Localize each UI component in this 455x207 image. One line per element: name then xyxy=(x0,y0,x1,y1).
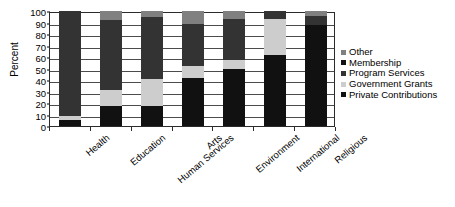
bar-segment[interactable] xyxy=(182,66,204,78)
legend-label: Government Grants xyxy=(349,79,432,89)
bar-segment[interactable] xyxy=(100,20,122,90)
bar-segment[interactable] xyxy=(223,69,245,127)
bar-slot xyxy=(91,13,132,126)
bar-segment[interactable] xyxy=(223,19,245,60)
bar-segment[interactable] xyxy=(264,19,286,55)
bar-segment[interactable] xyxy=(59,116,81,121)
x-category-label: Health xyxy=(84,132,112,158)
y-tick-label: 60 xyxy=(35,54,46,63)
y-tick-label: 20 xyxy=(35,100,46,109)
bar-segment[interactable] xyxy=(141,17,163,79)
legend-swatch-icon xyxy=(341,71,346,76)
stacked-bar[interactable] xyxy=(59,11,81,126)
y-axis-tick-labels: 1009080706050403020100 xyxy=(20,12,46,127)
bar-segment[interactable] xyxy=(141,79,163,107)
stacked-bar[interactable] xyxy=(141,11,163,126)
bar-series-group xyxy=(50,13,334,126)
x-tick-mark xyxy=(335,127,336,131)
bar-segment[interactable] xyxy=(100,106,122,126)
bar-segment[interactable] xyxy=(305,25,327,126)
bar-segment[interactable] xyxy=(141,106,163,126)
y-tick-label: 100 xyxy=(30,8,46,17)
bar-slot xyxy=(132,13,173,126)
chart-legend: OtherMembershipProgram ServicesGovernmen… xyxy=(341,47,453,100)
stacked-bar[interactable] xyxy=(305,11,327,126)
bar-segment[interactable] xyxy=(59,120,81,126)
y-tick-label: 40 xyxy=(35,77,46,86)
legend-item[interactable]: Government Grants xyxy=(341,79,453,90)
bar-slot xyxy=(254,13,295,126)
bar-segment[interactable] xyxy=(182,11,204,24)
x-category-label: Education xyxy=(128,132,167,168)
x-category-label: International xyxy=(294,132,341,174)
bar-segment[interactable] xyxy=(100,11,122,20)
legend-label: Program Services xyxy=(349,68,425,78)
y-tick-label: 80 xyxy=(35,31,46,40)
legend-label: Private Contributions xyxy=(349,90,437,100)
bar-segment[interactable] xyxy=(264,11,286,19)
bar-segment[interactable] xyxy=(182,78,204,126)
bar-segment[interactable] xyxy=(223,11,245,19)
y-tick-label: 50 xyxy=(35,65,46,74)
bar-segment[interactable] xyxy=(223,60,245,68)
stacked-bar[interactable] xyxy=(182,11,204,126)
legend-label: Membership xyxy=(349,58,401,68)
stacked-bar-chart: Percent 1009080706050403020100 HealthEdu… xyxy=(0,0,455,207)
bar-slot xyxy=(213,13,254,126)
stacked-bar[interactable] xyxy=(100,11,122,126)
bar-segment[interactable] xyxy=(305,11,327,16)
legend-swatch-icon xyxy=(341,82,346,87)
legend-item[interactable]: Private Contributions xyxy=(341,89,453,100)
stacked-bar[interactable] xyxy=(223,11,245,126)
legend-swatch-icon xyxy=(341,50,346,55)
legend-label: Other xyxy=(349,47,373,57)
y-tick-label: 90 xyxy=(35,19,46,28)
legend-swatch-icon xyxy=(341,92,346,97)
plot-area xyxy=(49,12,335,127)
bar-segment[interactable] xyxy=(182,24,204,67)
x-axis-category-labels: HealthEducationHuman ServicesArtsEnviron… xyxy=(49,130,335,190)
bar-segment[interactable] xyxy=(141,11,163,17)
legend-item[interactable]: Other xyxy=(341,47,453,58)
bar-slot xyxy=(173,13,214,126)
bar-slot xyxy=(295,13,336,126)
y-axis-title: Percent xyxy=(9,20,20,100)
bar-segment[interactable] xyxy=(100,90,122,106)
legend-swatch-icon xyxy=(341,60,346,65)
y-tick-label: 70 xyxy=(35,42,46,51)
x-category-label: Environment xyxy=(253,132,301,175)
bar-slot xyxy=(50,13,91,126)
stacked-bar[interactable] xyxy=(264,11,286,126)
y-tick-label: 10 xyxy=(35,111,46,120)
bar-segment[interactable] xyxy=(305,16,327,25)
y-tick-label: 0 xyxy=(41,123,46,132)
y-tick-label: 30 xyxy=(35,88,46,97)
bar-segment[interactable] xyxy=(59,11,81,116)
bar-segment[interactable] xyxy=(264,55,286,126)
